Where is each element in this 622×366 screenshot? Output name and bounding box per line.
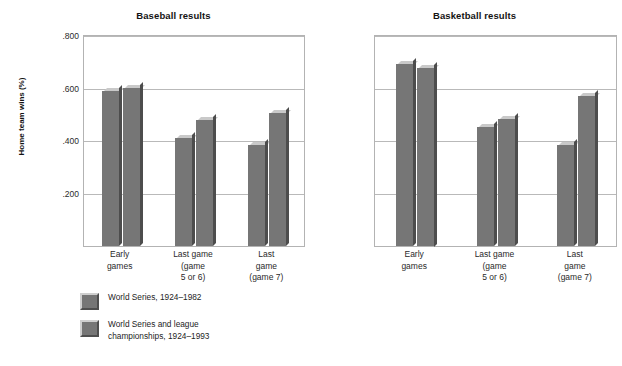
bar-side-face <box>213 114 216 246</box>
bar <box>417 68 434 247</box>
legend-swatch <box>80 293 99 310</box>
chart-panel-baseball: Baseball results Home team wins (%) .200… <box>0 0 311 366</box>
legend-swatch <box>80 320 99 337</box>
legend-label-line: World Series and league <box>108 319 209 331</box>
bar-side-face <box>265 139 268 246</box>
x-axis-category-line: (game 7) <box>535 272 615 284</box>
bar-side-face <box>595 90 598 246</box>
x-axis-category-line: 5 or 6) <box>153 272 233 284</box>
bar <box>269 113 286 246</box>
bar <box>498 119 515 246</box>
bar <box>102 91 119 246</box>
bar-side-face <box>119 85 122 246</box>
legend-label: World Series, 1924–1982 <box>108 292 201 304</box>
legend-item: World Series, 1924–1982 <box>80 292 209 310</box>
x-axis-category-line: Last game <box>153 249 233 261</box>
bar <box>175 138 192 246</box>
x-axis-category-line: Last <box>226 249 306 261</box>
x-axis-category-label: Earlygames <box>80 249 160 272</box>
x-axis-category-line: Last game <box>455 249 535 261</box>
x-axis-category-line: Early <box>374 249 454 261</box>
x-axis-category-line: games <box>80 261 160 273</box>
bar <box>248 145 265 246</box>
chart-title-basketball: Basketball results <box>311 10 622 21</box>
legend-label: World Series and leaguechampionships, 19… <box>108 319 209 342</box>
y-axis-label: Home team wins (%) <box>17 52 26 182</box>
bar-side-face <box>192 132 195 246</box>
bar <box>578 96 595 246</box>
x-axis-category-line: (game 7) <box>226 272 306 284</box>
x-axis-category-line: games <box>374 261 454 273</box>
x-axis-category-label: Lastgame(game 7) <box>535 249 615 284</box>
plot-area-baseball: .200.400.600.800 <box>83 35 305 247</box>
x-axis-category-line: (game <box>153 261 233 273</box>
bar <box>396 64 413 246</box>
x-axis-category-label: Earlygames <box>374 249 454 272</box>
legend-label-line: championships, 1924–1993 <box>108 331 209 343</box>
bar <box>123 88 140 246</box>
x-axis-category-line: game <box>535 261 615 273</box>
bar <box>196 120 213 246</box>
bar-side-face <box>574 139 577 246</box>
bar <box>477 127 494 246</box>
legend-label-line: World Series, 1924–1982 <box>108 292 201 304</box>
x-axis-category-line: 5 or 6) <box>455 272 535 284</box>
x-axis-category-label: Last game(game5 or 6) <box>455 249 535 284</box>
y-axis-tick-label: .400 <box>62 136 79 146</box>
y-axis-tick-label: .600 <box>62 84 79 94</box>
x-axis-category-label: Lastgame(game 7) <box>226 249 306 284</box>
x-axis-category-line: (game <box>455 261 535 273</box>
chart-panel-basketball: Basketball results EarlygamesLast game(g… <box>311 0 622 366</box>
bar-side-face <box>413 58 416 246</box>
chart-title-baseball: Baseball results <box>0 10 311 21</box>
legend-item: World Series and leaguechampionships, 19… <box>80 319 209 342</box>
x-axis-category-line: Last <box>535 249 615 261</box>
figure: Baseball results Home team wins (%) .200… <box>0 0 622 366</box>
plot-area-basketball <box>374 35 617 247</box>
bar-side-face <box>515 113 518 246</box>
x-axis-category-line: game <box>226 261 306 273</box>
bar-side-face <box>140 82 143 246</box>
bar-side-face <box>494 121 497 246</box>
x-axis-category-label: Last game(game5 or 6) <box>153 249 233 284</box>
legend-baseball: World Series, 1924–1982World Series and … <box>80 292 209 351</box>
gridline <box>375 36 616 37</box>
x-axis-category-line: Early <box>80 249 160 261</box>
bar-side-face <box>286 107 289 246</box>
y-axis-tick-label: .200 <box>62 189 79 199</box>
bar <box>557 145 574 246</box>
gridline <box>84 36 304 37</box>
bar-side-face <box>434 62 437 247</box>
y-axis-tick-label: .800 <box>62 31 79 41</box>
